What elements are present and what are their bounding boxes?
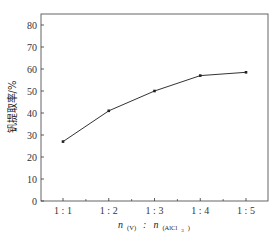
y-tick-label: 10 xyxy=(27,174,37,185)
data-point xyxy=(107,110,110,113)
plot-frame xyxy=(41,14,268,201)
svg-text:n (V) : n: n (V) : n (AlCl 3 ) xyxy=(118,214,190,235)
y-tick-label: 40 xyxy=(27,108,37,119)
y-tick-label: 30 xyxy=(27,130,37,141)
data-markers xyxy=(62,71,248,143)
x-tick-label: 1 : 4 xyxy=(191,205,209,216)
data-point xyxy=(62,140,65,143)
x-tick-label: 1 : 5 xyxy=(237,205,255,216)
y-tick-label: 50 xyxy=(27,86,37,97)
y-tick-label: 80 xyxy=(27,20,37,31)
data-point xyxy=(199,74,202,77)
data-line xyxy=(63,72,246,141)
line-chart: 01020304050607080 1 : 11 : 21 : 31 : 41 … xyxy=(0,0,280,241)
y-tick-label: 20 xyxy=(27,152,37,163)
y-tick-label: 70 xyxy=(27,42,37,53)
x-axis-title: n (V) : n (AlCl 3 ) xyxy=(118,214,190,235)
x-tick-label: 1 : 2 xyxy=(100,205,118,216)
x-tick-label: 1 : 1 xyxy=(54,205,72,216)
y-tick-label: 60 xyxy=(27,64,37,75)
y-axis-title: 钒提取率/% xyxy=(6,81,18,134)
y-tick-label: 0 xyxy=(32,196,37,207)
data-point xyxy=(153,90,156,93)
data-point xyxy=(245,71,248,74)
